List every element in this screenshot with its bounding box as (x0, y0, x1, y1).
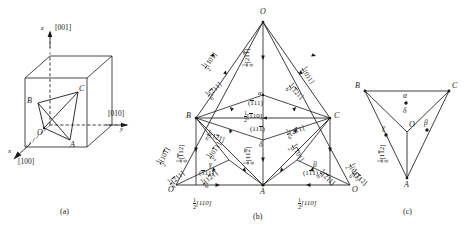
panel-c-vertex-A: A (404, 181, 409, 189)
panel-b-b-bottom-right: 12[110] (298, 197, 316, 210)
panel-a-caption: (a) (60, 207, 69, 216)
panel-b-s-left-vert: 16[112] (175, 144, 188, 162)
panel-b-vertex-O-right: O (352, 186, 358, 194)
panel-c-greek-alpha: α (403, 92, 407, 100)
panel-b-s-right-vert: 16[112] (376, 144, 389, 162)
axis-z-label: z (41, 25, 44, 32)
panel-b-plane-center-upper: (111) (248, 100, 263, 107)
panel-b-vertex-C: C (334, 112, 339, 120)
panel-b-vertex-O-top: O (260, 8, 266, 16)
panel-b-greek-beta: β (313, 161, 317, 169)
panel-a-tetrahedron (38, 92, 78, 140)
panel-c-caption: (c) (403, 207, 412, 216)
panel-c-greek-delta: δ (403, 107, 407, 115)
panel-b-b-bottom-left: 12[110] (193, 197, 211, 210)
panel-a-vertex-B: B (27, 97, 32, 105)
panel-c-greek-beta: β (424, 119, 428, 127)
panel-a-vertex-O: O (37, 129, 43, 137)
panel-b-plane-center-lower: (111) (250, 126, 265, 133)
panel-b-b-BC: 12[110] (244, 110, 262, 123)
panel-c-vertex-C: C (452, 82, 457, 90)
axis-y-label: y (120, 126, 123, 133)
panel-b-greek-delta: δ (259, 141, 263, 149)
panel-b-caption: (b) (253, 212, 262, 221)
panel-c-greek-gamma: γ (382, 124, 385, 132)
panel-a-vertex-A: A (70, 141, 75, 149)
axis-x-direction: [100] (18, 158, 34, 166)
panel-b-s-top-center: 16[211] (241, 48, 254, 66)
axis-y-direction: [010] (108, 110, 124, 118)
panel-b-vertex-A: A (260, 188, 265, 196)
panel-b-vertex-B: B (186, 112, 191, 120)
figure-root: z [001] [010] y x [100] B C O A (a) O B … (0, 0, 466, 231)
axis-z-direction: [001] (55, 24, 71, 32)
panel-c-vertex-O: O (409, 121, 415, 129)
figure-vector-layer (0, 0, 466, 231)
panel-a-vertex-C: C (79, 85, 84, 93)
panel-b-greek-alpha: α (258, 90, 262, 97)
panel-c-vertex-B: B (355, 82, 360, 90)
axis-x-label: x (8, 148, 11, 155)
panel-b-s-center-vert: 16[112] (242, 147, 255, 165)
